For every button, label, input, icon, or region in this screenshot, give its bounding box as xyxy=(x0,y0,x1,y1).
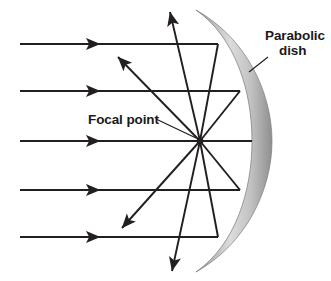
reflected-ray-2 xyxy=(200,91,240,141)
diverging-rays-from-focus xyxy=(20,12,200,271)
parabolic-dish-diagram: Parabolic dish Focal point xyxy=(0,0,331,281)
diverging-ray-4 xyxy=(118,57,200,141)
label-parabolic-dish-line2: dish xyxy=(279,43,325,58)
focal-point-dot xyxy=(197,138,204,145)
reflected-ray-4 xyxy=(200,141,240,190)
reflected-ray-1 xyxy=(200,44,218,141)
label-parabolic-dish: Parabolic dish xyxy=(265,28,325,58)
leader-line-parabolic-dish xyxy=(249,57,268,72)
diverging-ray-2 xyxy=(122,141,200,228)
reflected-ray-5 xyxy=(200,141,218,237)
label-parabolic-dish-line1: Parabolic xyxy=(265,28,325,43)
label-focal-point: Focal point xyxy=(88,112,159,127)
leader-line-focal-point xyxy=(156,119,196,138)
diverging-ray-5 xyxy=(170,12,200,141)
diverging-ray-1 xyxy=(172,141,200,271)
